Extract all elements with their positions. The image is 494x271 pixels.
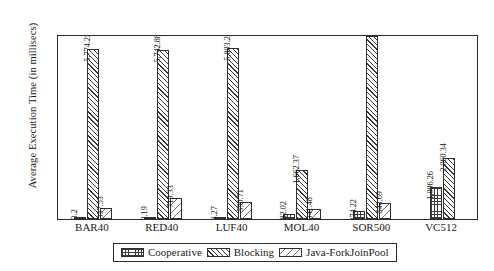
x-tick-red40: RED40	[127, 221, 197, 233]
chart-legend: CooperativeBlockingJava-ForkJoinPool	[113, 243, 397, 262]
x-tick-vc512: VC512	[406, 221, 476, 233]
y-axis-label: Average Execution Time (in millisecs)	[27, 6, 38, 206]
bar-group: 274.22543.69	[353, 36, 391, 219]
bar-value-label: 5,803.28	[223, 36, 232, 61]
bar-vc512-1: 2,060.34	[443, 158, 455, 219]
bar-luf40-2: 590.71	[240, 202, 252, 219]
bar-red40-2: 719.33	[170, 198, 182, 219]
bar-bar40-2: 357.53	[100, 208, 112, 219]
legend-label: Blocking	[234, 246, 274, 258]
bar-mol40-0: 182.02	[283, 214, 295, 219]
bar-value-label: 72.19	[140, 207, 149, 219]
bar-value-label: 543.69	[376, 191, 385, 213]
x-tick-bar40: BAR40	[57, 221, 127, 233]
bar-vc512-0: 1,096.26	[430, 187, 442, 219]
bar-group: 78.275,803.28590.71	[214, 48, 252, 219]
bar-value-label: 341.48	[306, 197, 315, 219]
bar-value-label: 1,662.37	[293, 155, 302, 184]
x-tick-mol40: MOL40	[267, 221, 337, 233]
x-tick-sor500: SOR500	[336, 221, 406, 233]
bar-value-label: 78.27	[210, 207, 219, 219]
legend-label: Java-ForkJoinPool	[306, 246, 389, 258]
bar-bar40-0: 53.2	[74, 217, 86, 219]
bar-group: 53.25,774.25357.53	[74, 49, 112, 219]
bar-value-label: 1,096.26	[426, 171, 435, 200]
bar-group: 182.021,662.37341.48	[283, 170, 321, 219]
bar-bar40-1: 5,774.25	[87, 49, 99, 219]
bar-value-label: 182.02	[280, 201, 289, 219]
x-axis-tick-labels: BAR40RED40LUF40MOL40SOR500VC512	[57, 221, 476, 237]
bar-value-label: 274.22	[350, 199, 359, 219]
plot-clip-region: 53.25,774.25357.5372.195,742.88719.3378.…	[58, 36, 477, 219]
legend-swatch-icon	[207, 248, 230, 257]
legend-label: Cooperative	[148, 246, 202, 258]
legend-swatch-icon	[279, 248, 302, 257]
legend-item-cooperative: Cooperative	[121, 246, 202, 258]
bar-value-label: 719.33	[166, 186, 175, 208]
bar-mol40-2: 341.48	[309, 209, 321, 219]
bar-value-label: 2,060.34	[439, 143, 448, 172]
legend-item-java-forkjoinpool: Java-ForkJoinPool	[279, 246, 389, 258]
bar-value-label: 5,742.88	[153, 36, 162, 63]
legend-item-blocking: Blocking	[207, 246, 274, 258]
x-tick-luf40: LUF40	[197, 221, 267, 233]
bar-group: 72.195,742.88719.33	[144, 50, 182, 220]
bar-group: 1,096.262,060.34	[423, 158, 461, 219]
bar-chart: Average Execution Time (in millisecs) 53…	[0, 0, 494, 271]
bar-sor500-0: 274.22	[353, 211, 365, 219]
bar-luf40-0: 78.27	[214, 217, 226, 219]
bar-value-label: 590.71	[236, 189, 245, 211]
bar-red40-0: 72.19	[144, 217, 156, 219]
bar-value-label: 53.2	[71, 209, 80, 219]
bar-sor500-2: 543.69	[379, 203, 391, 219]
plot-area: 53.25,774.25357.5372.195,742.88719.3378.…	[57, 35, 478, 220]
bar-value-label: 357.53	[97, 196, 106, 218]
bar-value-label: 5,774.25	[84, 36, 93, 62]
legend-swatch-icon	[121, 248, 144, 257]
